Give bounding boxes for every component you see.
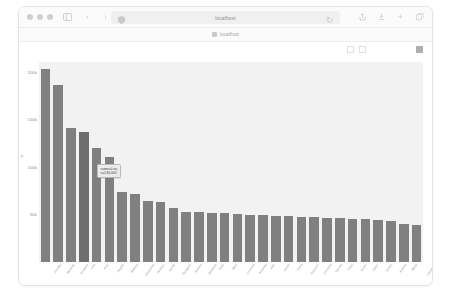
bar[interactable] <box>41 69 50 262</box>
minimize-window-button[interactable] <box>37 14 43 20</box>
x-axis-tick-label: Lisa <box>89 263 96 270</box>
x-axis-tick-label: Maria <box>410 263 418 272</box>
x-axis-tick-label: Kelly <box>218 263 225 271</box>
x-axis-tick-label: Kimberly <box>79 263 89 275</box>
x-axis-tick-label: Andrea <box>398 263 407 273</box>
plot-toolbar <box>19 42 432 57</box>
bar[interactable] <box>181 212 190 262</box>
x-axis-tick-label: Jennifer <box>53 263 63 274</box>
nav-buttons: ‹ › <box>82 12 111 23</box>
bar[interactable] <box>258 215 267 262</box>
x-axis-tick-label: Karen <box>359 263 367 272</box>
bar[interactable] <box>284 216 293 262</box>
close-window-button[interactable] <box>27 14 33 20</box>
x-axis-tick-label: Heather <box>155 263 165 274</box>
lasso-select-icon[interactable] <box>359 46 366 53</box>
url-text: localhost <box>215 15 236 21</box>
traffic-lights <box>27 14 53 20</box>
bar[interactable] <box>373 220 382 262</box>
bar[interactable] <box>53 85 62 262</box>
x-axis-tick-label: Amy <box>102 263 109 270</box>
chevron-right-icon[interactable]: › <box>100 12 111 23</box>
download-plot-icon[interactable] <box>416 46 423 53</box>
tab-overview-icon[interactable] <box>414 12 425 23</box>
zoom-out-icon[interactable] <box>382 46 389 53</box>
x-axis-tick-label: Angela <box>117 263 126 273</box>
bar[interactable] <box>335 218 344 262</box>
y-axis-tick: 150k <box>27 117 37 122</box>
sidebar-icon[interactable] <box>62 12 73 23</box>
bar[interactable] <box>233 214 242 262</box>
bar[interactable] <box>386 221 395 262</box>
new-tab-icon[interactable]: + <box>395 12 406 23</box>
x-axis-tick-label: Julie <box>269 263 276 271</box>
reload-icon[interactable]: ↻ <box>324 15 335 26</box>
y-axis-ticks: 50k100k150k200k <box>19 57 37 262</box>
share-icon[interactable] <box>357 12 368 23</box>
y-axis-tick: 100k <box>27 164 37 169</box>
x-axis-tick-label: Jessica <box>194 263 203 274</box>
bar[interactable] <box>156 202 165 262</box>
x-axis-tick-label: Shannon <box>310 263 320 275</box>
bar[interactable] <box>169 208 178 262</box>
page-favicon <box>212 32 217 37</box>
bar[interactable] <box>66 128 75 262</box>
y-axis-tick: 200k <box>27 69 37 74</box>
x-axis-tick-label: Tracy <box>346 263 354 272</box>
bar[interactable] <box>361 219 370 262</box>
tooltip-line-2: n=136,000 <box>101 171 118 175</box>
bar[interactable] <box>297 217 306 262</box>
bar-tooltip: name=Lisa n=136,000 <box>97 164 121 178</box>
bar[interactable] <box>220 213 229 262</box>
bar[interactable] <box>79 132 88 262</box>
bar[interactable] <box>412 225 421 262</box>
downloads-icon[interactable] <box>376 12 387 23</box>
bar[interactable] <box>194 212 203 262</box>
bar[interactable] <box>117 192 126 262</box>
x-axis-tick-label: Melissa <box>130 263 139 274</box>
zoom-window-button[interactable] <box>47 14 53 20</box>
x-axis-tick-label: Stephanie <box>144 263 155 277</box>
chevron-left-icon[interactable]: ‹ <box>82 12 93 23</box>
x-axis-tick-label: Christine <box>322 263 332 275</box>
bookmarks-bar: localhost <box>19 28 432 42</box>
bookmark-label[interactable]: localhost <box>220 32 239 37</box>
bar[interactable] <box>399 224 408 262</box>
bar[interactable] <box>322 218 331 262</box>
x-axis-tick-label: Catherine <box>425 263 433 276</box>
toolbar-right: + <box>357 12 425 23</box>
zoom-in-icon[interactable] <box>370 46 377 53</box>
browser-window: ‹ › localhost ↻ + <box>18 6 433 286</box>
autoscale-icon[interactable] <box>393 46 400 53</box>
x-axis-tick-label: Susan <box>385 263 393 272</box>
zoom-icon[interactable] <box>336 46 343 53</box>
browser-titlebar: ‹ › localhost ↻ + <box>19 7 432 28</box>
x-axis-labels: JenniferMichelleKimberlyLisaAmyAngelaMel… <box>39 263 423 286</box>
x-axis-tick-label: Sarah <box>282 263 290 272</box>
shield-icon[interactable] <box>116 14 127 25</box>
x-axis-tick-label: Elizabeth <box>182 263 193 276</box>
box-select-icon[interactable] <box>347 46 354 53</box>
x-axis-tick-label: Nicole <box>167 263 175 272</box>
address-bar[interactable]: localhost ↻ <box>111 11 340 24</box>
x-axis-tick-label: Tammy <box>334 263 343 273</box>
home-icon[interactable] <box>313 46 320 53</box>
bar[interactable] <box>309 217 318 262</box>
x-axis-tick-label: Laura <box>295 263 303 272</box>
pan-icon[interactable] <box>324 46 331 53</box>
reset-axes-icon[interactable] <box>405 46 412 53</box>
x-axis-tick-label: Mary <box>231 263 238 271</box>
y-axis-tick: 50k <box>30 212 37 217</box>
x-axis-tick-label: Amanda <box>258 263 268 275</box>
bar[interactable] <box>130 194 139 262</box>
bar[interactable] <box>271 216 280 262</box>
x-axis-tick-label: Rebecca <box>207 263 217 275</box>
x-axis-tick-label: Christina <box>246 263 256 275</box>
bar[interactable] <box>348 219 357 262</box>
chart-canvas: n 50k100k150k200k JenniferMichelleKimber… <box>19 57 432 286</box>
bar[interactable] <box>207 213 216 262</box>
bar[interactable] <box>245 215 254 262</box>
x-axis-tick-label: Dawn <box>372 263 380 272</box>
bar[interactable] <box>143 201 152 262</box>
x-axis-tick-label: Michelle <box>66 263 76 275</box>
